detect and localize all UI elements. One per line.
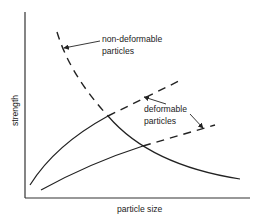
arrow-non-deformable — [64, 41, 100, 48]
deformable-curve-lower-dashed — [143, 125, 215, 146]
label-non-deformable-line1: non-deformable — [102, 34, 162, 44]
deformable-curve-upper-solid — [30, 116, 108, 185]
label-deformable-line2: particles — [144, 116, 176, 126]
y-axis-label: strength — [10, 95, 20, 126]
arrow-deformable-upper — [144, 97, 166, 104]
label-non-deformable-line2: particles — [102, 46, 134, 56]
strength-vs-particle-size-diagram: non-deformable particles deformable part… — [0, 0, 263, 222]
label-deformable-line1: deformable — [144, 104, 187, 114]
x-axis-label: particle size — [117, 204, 163, 214]
arrow-deformable-lower — [190, 114, 203, 128]
